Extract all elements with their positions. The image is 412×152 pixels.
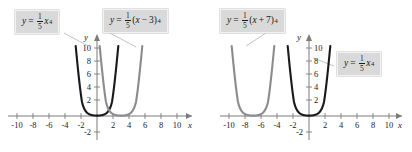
fraction-one-fifth: 1 5 — [37, 13, 43, 30]
leader-line-right-1 — [246, 33, 266, 46]
x-tick-labels: -10 -8 -6 -4 -2 2 4 6 8 10 — [223, 120, 393, 130]
x-tick-label: 4 — [339, 120, 344, 130]
equation-right-1: y = 1 5 (x+7)4 — [227, 12, 278, 29]
x-axis-arrowhead — [186, 113, 192, 119]
leader-line-left-2 — [108, 32, 136, 47]
y-tick-label: 6 — [314, 69, 318, 79]
x-tick-label: 10 — [385, 120, 394, 130]
equals-sign: = — [116, 16, 121, 26]
y-tick-label: 6 — [87, 69, 91, 79]
x-tick-labels: -10 -8 -6 -4 -2 2 4 6 8 10 — [11, 120, 181, 130]
fraction-numerator: 1 — [125, 12, 131, 21]
x-tick-label: 8 — [371, 120, 375, 130]
x-tick-label: -6 — [45, 120, 52, 130]
y-tick-label: 10 — [83, 43, 92, 53]
equation-variable: x — [253, 16, 257, 26]
x-tick-label: 4 — [127, 120, 132, 130]
y-tick-label: 8 — [314, 56, 318, 66]
equation-variable: x — [136, 16, 140, 26]
y-axis-arrowhead — [306, 34, 312, 41]
fraction-denominator: 5 — [359, 64, 365, 72]
x-tick-label: -4 — [273, 120, 281, 130]
curve-gray-left — [100, 46, 143, 116]
x-tick-label: -6 — [257, 120, 264, 130]
close-paren: ) — [154, 16, 157, 26]
y-axis-label: y — [296, 32, 301, 42]
x-tick-label: 2 — [323, 120, 327, 130]
y-tick-label: -2 — [84, 127, 91, 137]
x-axis-label: x — [397, 120, 402, 130]
callout-equation-left-1: y = 1 5 x4 — [15, 10, 59, 34]
equation-left-2: y = 1 5 (x−3)4 — [110, 12, 161, 29]
graph-panel-left: -10 -8 -6 -4 -2 2 4 6 8 10 10 8 6 4 2 -2 — [0, 0, 206, 152]
fraction-one-fifth: 1 5 — [125, 12, 131, 29]
equation-variable: x — [366, 59, 370, 69]
equation-lhs: y — [22, 17, 26, 27]
fraction-one-fifth: 1 5 — [359, 55, 365, 72]
equals-sign: = — [350, 59, 355, 69]
callout-equation-left-2: y = 1 5 (x−3)4 — [103, 9, 168, 33]
quartic-transformation-figure: -10 -8 -6 -4 -2 2 4 6 8 10 10 8 6 4 2 -2 — [0, 0, 412, 152]
x-tick-label: 8 — [159, 120, 163, 130]
shift-operator: + — [259, 16, 264, 26]
equals-sign: = — [28, 17, 33, 27]
y-axis-label: y — [83, 32, 88, 42]
equation-variable: x — [44, 17, 48, 27]
fraction-denominator: 5 — [242, 21, 248, 29]
x-tick-label: -10 — [223, 120, 234, 130]
fraction-numerator: 1 — [37, 13, 43, 22]
x-tick-label: -8 — [241, 120, 248, 130]
equation-left-1: y = 1 5 x4 — [22, 13, 52, 30]
y-tick-label: 4 — [314, 82, 319, 92]
x-tick-label: 10 — [173, 120, 182, 130]
x-tick-label: 6 — [355, 120, 359, 130]
fraction-denominator: 5 — [125, 21, 131, 29]
y-axis-arrowhead — [94, 34, 100, 41]
y-tick-label: 2 — [314, 95, 318, 105]
callout-equation-right-2: y = 1 5 x4 — [337, 52, 381, 76]
graph-panel-right: -10 -8 -6 -4 -2 2 4 6 8 10 10 8 6 4 2 -2 — [206, 0, 412, 152]
fraction-numerator: 1 — [242, 12, 248, 21]
y-tick-label-negative-two: -2 — [296, 127, 303, 137]
fraction-numerator: 1 — [359, 55, 365, 64]
close-paren: ) — [271, 16, 274, 26]
x-tick-label: -4 — [61, 120, 69, 130]
y-tick-labels: 10 8 6 4 2 — [314, 43, 323, 105]
equation-right-2: y = 1 5 x4 — [344, 55, 374, 72]
equation-lhs: y — [344, 59, 348, 69]
x-tick-label: 2 — [111, 120, 115, 130]
x-tick-label: 6 — [143, 120, 147, 130]
y-tick-label: 8 — [87, 56, 91, 66]
fraction-one-fifth: 1 5 — [242, 12, 248, 29]
shift-operator: − — [142, 16, 147, 26]
x-tick-label: -10 — [11, 120, 22, 130]
x-axis-arrowhead — [396, 113, 402, 119]
callout-equation-right-1: y = 1 5 (x+7)4 — [220, 9, 285, 33]
equation-lhs: y — [227, 16, 231, 26]
y-tick-label: 10 — [314, 43, 323, 53]
x-tick-label: -8 — [29, 120, 36, 130]
equation-lhs: y — [110, 16, 114, 26]
curve-gray-right — [232, 46, 275, 116]
fraction-denominator: 5 — [37, 22, 43, 30]
x-axis-label: x — [187, 120, 192, 130]
y-tick-label: 2 — [87, 95, 91, 105]
y-tick-label: 4 — [87, 82, 92, 92]
equals-sign: = — [233, 16, 238, 26]
